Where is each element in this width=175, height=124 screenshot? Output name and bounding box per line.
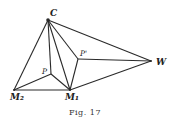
figure-diagram: C W P' P M₂ M₁ Fig. 17 <box>0 0 175 124</box>
edge-p-prime-w <box>78 59 151 61</box>
vertex-w <box>150 60 152 62</box>
label-p-prime: P' <box>79 49 87 58</box>
figure-caption: Fig. 17 <box>69 108 101 117</box>
edge-c-m2 <box>14 20 48 90</box>
edge-m1-w <box>70 61 151 90</box>
labels: C W P' P M₂ M₁ Fig. 17 <box>9 8 167 117</box>
label-m2: M₂ <box>9 92 24 102</box>
label-c: C <box>50 8 58 18</box>
label-p: P <box>41 67 48 76</box>
vertex-m1 <box>69 89 71 91</box>
edge-c-m1-a <box>48 20 70 90</box>
edge-p-prime-m1 <box>70 59 78 90</box>
vertex-c <box>46 18 50 22</box>
vertex-m2 <box>13 89 15 91</box>
label-w: W <box>156 57 167 67</box>
label-m1: M₁ <box>64 92 79 102</box>
edge-p-m2 <box>14 74 51 90</box>
